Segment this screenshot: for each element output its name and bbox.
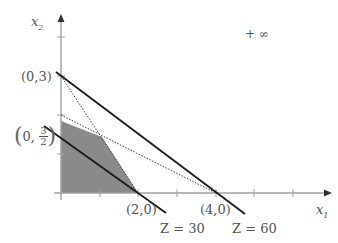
- x-axis-label-sub: 1: [323, 211, 328, 220]
- fraction-denominator: 2: [40, 137, 46, 147]
- y-axis-arrow-icon: [58, 14, 65, 22]
- point-label-0-3-2: (0, 32): [14, 125, 56, 147]
- x-axis-label: x1: [316, 203, 328, 220]
- y-axis-label: x2: [31, 15, 43, 32]
- feasible-region: [61, 121, 138, 193]
- fraction-3-2: 32: [39, 126, 47, 147]
- objective-label-z30: Z = 30: [160, 222, 205, 235]
- right-paren: ): [48, 123, 57, 148]
- left-paren: (: [14, 123, 23, 148]
- point-label-4-0: (4,0): [200, 203, 231, 216]
- x-axis-arrow-icon: [324, 190, 332, 197]
- fraction-numerator: 3: [39, 126, 47, 137]
- y-axis-label-sub: 2: [38, 23, 43, 32]
- infinity-annotation: + ∞: [245, 28, 269, 40]
- objective-label-z60: Z = 60: [232, 222, 277, 235]
- point-label-2-0: (2,0): [126, 203, 157, 216]
- point-0-3-2-x: 0,: [23, 129, 40, 144]
- point-label-0-3: (0,3): [21, 70, 52, 83]
- lp-diagram: [0, 0, 338, 243]
